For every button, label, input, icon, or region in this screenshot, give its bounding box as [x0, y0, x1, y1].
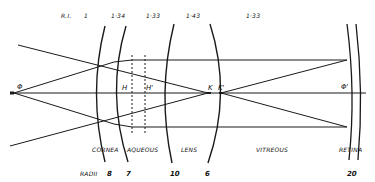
label-cornea: CORNEA [92, 146, 119, 153]
label-aqueous: AQUEOUS [126, 146, 158, 153]
radius-cornea-front: 8 [107, 170, 112, 178]
ri-value-vitreous: 1·33 [246, 12, 260, 19]
label-h-prime: H' [146, 84, 153, 92]
ri-value-aqueous: 1·33 [146, 12, 160, 19]
radius-lens-front: 10 [170, 170, 180, 178]
nodal-point-k-marker [207, 92, 211, 94]
nodal-point-k-prime-marker [219, 92, 223, 94]
label-retina: RETINA [339, 146, 362, 153]
label-h: H [122, 84, 128, 92]
label-k-prime: K' [218, 84, 225, 92]
label-vitreous: VITREOUS [256, 146, 288, 153]
label-k: K [208, 84, 214, 92]
radius-cornea-back: 7 [126, 170, 131, 178]
label-lens: LENS [181, 146, 197, 153]
cornea-back-surface [116, 26, 128, 162]
light-rays [10, 45, 347, 146]
retina-inner-surface [347, 24, 352, 160]
label-image-point: Φ' [341, 83, 349, 91]
schematic-eye-diagram: R.I. 1 1·34 1·33 1·43 1·33 Φ H H' K K' Φ… [0, 0, 375, 182]
radii-label: RADII [80, 170, 97, 177]
retina-outer-surface [356, 24, 361, 160]
ri-value-air: 1 [84, 12, 88, 19]
ri-label: R.I. [61, 12, 72, 19]
ri-value-lens: 1·43 [186, 12, 200, 19]
label-object-point: Φ [17, 83, 23, 91]
ri-value-cornea: 1·34 [111, 12, 125, 19]
radius-lens-back: 6 [205, 170, 210, 178]
radius-retina: 20 [347, 170, 357, 178]
object-point-marker [10, 92, 14, 95]
cornea-front-surface [97, 26, 106, 162]
